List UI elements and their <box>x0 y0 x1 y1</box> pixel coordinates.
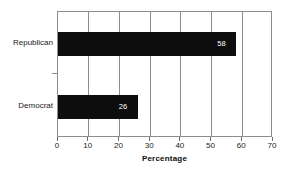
bar-value-label: 58 <box>217 40 226 48</box>
plot-area: 5826 <box>57 11 272 137</box>
bar-value-label: 26 <box>119 103 128 111</box>
x-axis-tick-label-0: 0 <box>55 142 59 150</box>
y-axis-tick <box>52 73 57 74</box>
x-axis-title: Percentage <box>57 155 272 163</box>
x-axis-tick-label-40: 40 <box>175 142 184 150</box>
x-axis-tick-label-30: 30 <box>145 142 154 150</box>
x-axis-tick-label-60: 60 <box>237 142 246 150</box>
bar-chart-figure: 5826 Republican Democrat Percentage 0102… <box>0 0 286 174</box>
category-label-democrat: Democrat <box>18 102 53 110</box>
x-axis-tick-label-50: 50 <box>206 142 215 150</box>
category-label-republican: Republican <box>13 39 53 47</box>
x-axis-tick-label-20: 20 <box>114 142 123 150</box>
x-axis-tick-label-70: 70 <box>268 142 277 150</box>
x-axis-tick-label-10: 10 <box>83 142 92 150</box>
bar-republican <box>58 32 236 56</box>
bar-row: 26 <box>58 95 273 119</box>
bar-row: 58 <box>58 32 273 56</box>
